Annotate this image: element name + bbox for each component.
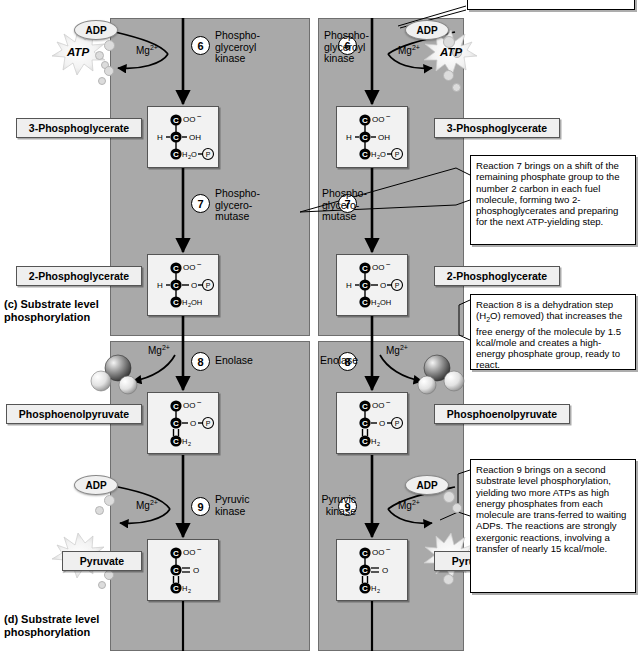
svg-text:C: C [173, 419, 179, 428]
structure-box-phosphoenolpyruvate-left: C OO − C O P C H 2 [147, 392, 219, 454]
compound-tag-2-phosphoglycerate-right: 2-Phosphoglycerate [434, 266, 560, 286]
mg-charge: 2+ [412, 44, 420, 51]
mg-text: Mg [398, 500, 412, 511]
svg-text:2: 2 [377, 441, 380, 447]
mg-charge: 2+ [412, 499, 420, 506]
svg-text:C: C [362, 566, 368, 575]
svg-text:H: H [182, 584, 187, 593]
svg-text:OH: OH [378, 133, 390, 142]
note-reaction-8-text: Reaction 8 is a dehydration step (H2O) r… [476, 299, 622, 370]
compound-tag-phosphoenolpyruvate-right: Phosphoenolpyruvate [434, 404, 570, 424]
mg-text: Mg [398, 45, 412, 56]
step-number-text: 6 [197, 40, 203, 52]
enzyme-label-7-right: Phospho- glycero- mutase [322, 188, 392, 223]
svg-text:OO: OO [372, 263, 384, 272]
structure-box-2-phosphoglycerate-right: C OO − C H O P C H 2 OH [336, 254, 408, 316]
step-number-text: 7 [197, 198, 203, 210]
step-number-9-left: 9 [191, 497, 210, 516]
svg-text:C: C [173, 116, 179, 125]
svg-text:2: 2 [188, 441, 191, 447]
svg-text:C: C [362, 298, 368, 307]
compound-name: Pyruvate [80, 555, 124, 567]
step-number-6-left: 6 [191, 36, 210, 55]
compound-name: Phosphoenolpyruvate [447, 408, 557, 420]
svg-text:2: 2 [188, 588, 191, 594]
svg-text:OO: OO [372, 115, 384, 124]
svg-text:−: − [386, 545, 391, 554]
svg-text:C: C [362, 419, 368, 428]
atp-label: ATP [47, 29, 109, 75]
note-reaction-9-text: Reaction 9 brings on a second substrate … [476, 464, 626, 554]
step-number-text: 9 [197, 501, 203, 513]
cofactor-label-mg-8-right: Mg2+ [386, 344, 408, 356]
enzyme-label-8-right: Enolase [288, 355, 358, 367]
svg-text:C: C [173, 549, 179, 558]
svg-text:−: − [197, 398, 202, 407]
svg-text:H: H [157, 281, 163, 290]
note-top: Reaction 6 makes [467, 0, 635, 10]
svg-text:C: C [362, 133, 368, 142]
mg-text: Mg [136, 500, 150, 511]
svg-text:OO: OO [372, 401, 384, 410]
atp-trail-dot [452, 83, 461, 92]
adp-bubble-step9-right: ADP [405, 475, 449, 495]
atp-trail-dot [98, 581, 106, 589]
svg-text:P: P [206, 420, 211, 427]
atp-trail-dot [443, 574, 454, 585]
structure-box-3-phosphoglycerate-right: C OO − C H OH C H 2 O P [336, 106, 408, 168]
svg-text:C: C [362, 150, 368, 159]
atp-burst-step6-left: ATP [47, 29, 109, 75]
cofactor-label-mg-8-left: Mg2+ [148, 344, 170, 356]
cofactor-label-mg-9-left: Mg2+ [136, 499, 158, 511]
svg-text:O: O [382, 566, 388, 575]
compound-tag-3-phosphoglycerate-left: 3-Phosphoglycerate [16, 118, 142, 138]
mg-text: Mg [136, 45, 150, 56]
svg-text:OH: OH [380, 298, 391, 307]
svg-text:O: O [380, 150, 386, 159]
svg-text:C: C [173, 264, 179, 273]
compound-tag-2-phosphoglycerate-left: 2-Phosphoglycerate [16, 266, 142, 286]
compound-tag-phosphoenolpyruvate-left: Phosphoenolpyruvate [6, 404, 142, 424]
svg-text:−: − [386, 260, 391, 269]
svg-text:H: H [157, 133, 163, 142]
adp-trail-dot [95, 506, 104, 515]
svg-text:C: C [362, 549, 368, 558]
svg-text:OO: OO [183, 263, 195, 272]
svg-text:−: − [197, 545, 202, 554]
step-number-7-left: 7 [191, 194, 210, 213]
atp-trail-dot [443, 70, 454, 81]
svg-text:C: C [362, 402, 368, 411]
svg-text:P: P [206, 282, 211, 289]
adp-bubble-step9-left: ADP [74, 475, 118, 495]
svg-text:C: C [173, 133, 179, 142]
mg-charge: 2+ [150, 499, 158, 506]
svg-text:H: H [182, 437, 187, 446]
svg-text:H: H [371, 584, 376, 593]
mg-text: Mg [386, 345, 400, 356]
compound-name: 3-Phosphoglycerate [447, 122, 547, 134]
compound-name: Phosphoenolpyruvate [19, 408, 129, 420]
atp-trail-dot [104, 66, 114, 76]
mg-text: Mg [148, 345, 162, 356]
compound-name: 2-Phosphoglycerate [29, 270, 129, 282]
svg-text:−: − [386, 398, 391, 407]
svg-text:−: − [386, 112, 391, 121]
svg-text:C: C [362, 281, 368, 290]
svg-text:2: 2 [377, 588, 380, 594]
svg-text:H: H [346, 133, 352, 142]
enzyme-label-8-left: Enolase [215, 355, 285, 367]
caption-c: (c) Substrate level phosphorylation [4, 298, 112, 324]
mg-charge: 2+ [162, 344, 170, 351]
adp-label: ADP [416, 480, 437, 491]
svg-text:O: O [191, 150, 197, 159]
note-reaction-7: Reaction 7 brings on a shift of the rema… [470, 155, 636, 245]
cofactor-label-mg-6-right: Mg2+ [398, 44, 420, 56]
mg-charge: 2+ [150, 44, 158, 51]
compound-name: 3-Phosphoglycerate [29, 122, 129, 134]
svg-text:O: O [380, 281, 386, 290]
structure-box-3-phosphoglycerate-left: C OO − C H OH C H 2 O P [147, 106, 219, 168]
svg-text:O: O [191, 281, 197, 290]
svg-text:C: C [173, 298, 179, 307]
adp-trail-dot [104, 495, 115, 506]
svg-text:C: C [173, 281, 179, 290]
